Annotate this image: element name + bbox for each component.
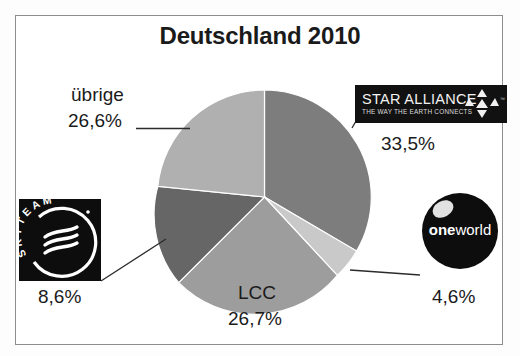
leader-line-oneworld [350,270,420,275]
oneworld-logo: oneworld [421,192,499,270]
label-star-value: 33,5% [381,133,435,155]
star-alliance-logo: STAR ALLIANCE THE WAY THE EARTH CONNECTS… [355,85,507,123]
star-alliance-tm-icon: ™ [500,96,505,102]
label-skyteam-value: 8,6% [38,286,81,308]
leader-line-skyteam [101,239,166,281]
skyteam-logo: SKYTEAM [19,199,101,281]
oneworld-wordmark: oneworld [421,222,499,237]
oneworld-word-one: one [429,221,456,238]
pie-slice-uebrige[interactable] [158,90,265,197]
star-alliance-star-icon [465,88,499,120]
star-alliance-wordmark: STAR ALLIANCE [362,92,477,107]
label-uebrige-name: übrige [71,84,124,106]
label-uebrige-value: 26,6% [68,110,122,132]
oneworld-word-world: world [455,221,491,238]
skyteam-mark-icon: SKYTEAM [19,199,101,281]
chart-figure: Deutschland 2010 übrige 26,6% LCC 26,7% … [0,0,520,356]
label-lcc-name: LCC [238,282,276,304]
label-oneworld-value: 4,6% [432,286,475,308]
star-alliance-tagline: THE WAY THE EARTH CONNECTS [362,109,472,115]
label-lcc-value: 26,7% [228,308,282,330]
